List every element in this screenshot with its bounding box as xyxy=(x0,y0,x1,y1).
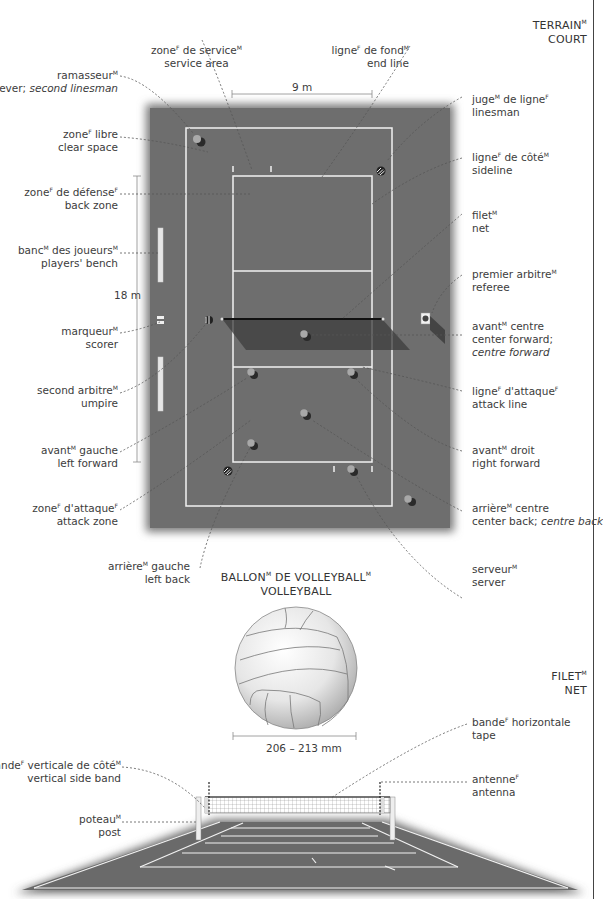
label-server: serveurM server xyxy=(472,560,517,589)
volleyball-ball xyxy=(235,607,357,729)
label-referee: premier arbitreM referee xyxy=(472,265,557,294)
label-net: filetM net xyxy=(472,206,497,235)
section-title-ball: BALLONM DE VOLLEYBALLM VOLLEYBALL xyxy=(196,567,396,599)
section-title-court: TERRAINM COURT xyxy=(533,15,587,47)
ball-diameter-label: 206 – 213 mm xyxy=(266,742,342,755)
label-linesman: jugeM de ligneF linesman xyxy=(472,90,549,119)
dimension-width-label: 9 m xyxy=(292,81,312,94)
section-title-net: FILETM NET xyxy=(551,666,587,698)
label-sideline: ligneF de côtéM sideline xyxy=(472,148,549,177)
label-service-area: zoneF de serviceM service area xyxy=(151,41,242,70)
label-vertical-side-band: bandeF verticale de côtéM vertical side … xyxy=(0,756,121,785)
label-left-forward: avantM gauche left forward xyxy=(41,441,118,470)
label-attack-zone: zoneF d'attaqueF attack zone xyxy=(32,499,118,528)
label-back-zone: zoneF de défenseF back zone xyxy=(24,183,118,212)
label-umpire: second arbitreM umpire xyxy=(37,381,118,410)
label-antenna: antenneF antenna xyxy=(472,770,519,799)
court-top-view xyxy=(146,104,454,532)
label-players-bench: bancM des joueursM players' bench xyxy=(18,241,118,270)
label-clear-space: zoneF libre clear space xyxy=(58,125,118,154)
dimension-length-label: 18 m xyxy=(114,289,141,302)
label-end-line: ligneF de fondM end line xyxy=(331,41,409,70)
label-left-back: arrièreM gauche left back xyxy=(108,557,190,586)
label-post: poteauM post xyxy=(79,810,121,839)
page-right-border xyxy=(593,0,594,899)
label-center-back: arrièreM centre center back; centre back xyxy=(472,499,603,528)
label-scorer: marqueurM scorer xyxy=(61,322,118,351)
label-center-forward: avantM centre center forward; centre for… xyxy=(472,317,553,359)
label-retriever: ramasseurM retriever; second linesman xyxy=(0,66,118,95)
label-tape: bandeF horizontale tape xyxy=(472,713,571,742)
label-attack-line: ligneF d'attaqueF attack line xyxy=(472,382,558,411)
label-right-forward: avantM droit right forward xyxy=(472,441,540,470)
